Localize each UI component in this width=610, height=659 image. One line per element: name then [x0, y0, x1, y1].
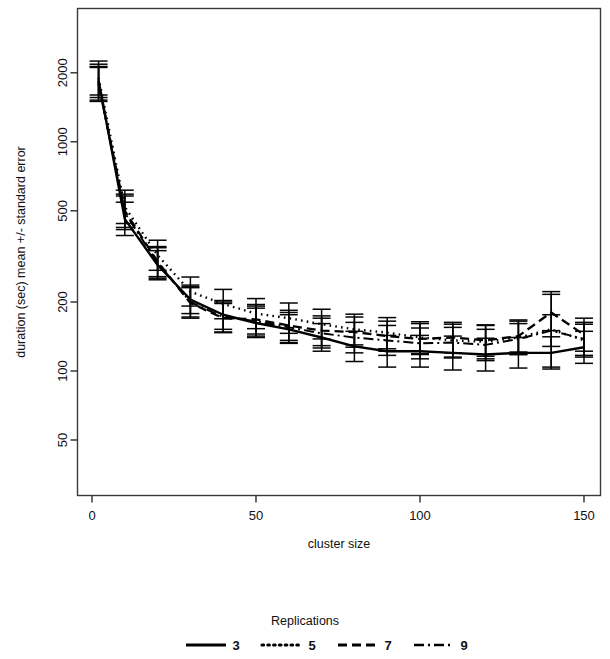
legend-label-9: 9: [460, 638, 467, 653]
x-tick-label: 0: [88, 508, 95, 523]
legend-title: Replications: [271, 614, 339, 628]
duration-vs-cluster-size-chart: 5010020050010002000 050100150 duration (…: [0, 0, 610, 659]
legend-label-3: 3: [232, 638, 239, 653]
y-axis-title: duration (sec) mean +/- standard error: [14, 146, 28, 358]
y-tick-label: 2000: [55, 58, 70, 87]
y-tick-label: 100: [55, 360, 70, 382]
y-tick-label: 1000: [55, 127, 70, 156]
legend-label-7: 7: [384, 638, 391, 653]
legend-label-5: 5: [308, 638, 315, 653]
x-axis-title: cluster size: [308, 537, 371, 551]
y-tick-label: 500: [55, 200, 70, 222]
x-tick-label: 150: [573, 508, 595, 523]
chart-figure: 5010020050010002000 050100150 duration (…: [0, 0, 610, 659]
y-tick-label: 50: [55, 433, 70, 447]
x-tick-label: 100: [409, 508, 431, 523]
y-tick-label: 200: [55, 291, 70, 313]
x-tick-label: 50: [249, 508, 263, 523]
